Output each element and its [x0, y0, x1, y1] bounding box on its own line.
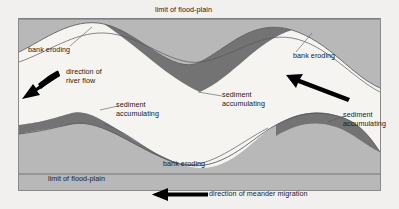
bank-eroding-bottom-label: bank eroding	[163, 160, 205, 169]
bank-eroding-top-right-label: bank eroding	[293, 52, 335, 61]
bank-eroding-top-left-label: bank eroding	[28, 46, 70, 55]
sediment-accumulating-top-middle-label: sediment accumulating	[222, 91, 284, 108]
direction-of-meander-migration-label: direction of meander migration	[209, 190, 308, 199]
direction-of-river-flow-label: direction of river flow	[66, 68, 110, 85]
sediment-accumulating-mid-right-label: sediment accumulating	[343, 111, 399, 128]
limit-of-floodplain-bottom-label: limit of flood-plain	[48, 175, 105, 184]
diagram-canvas: limit of flood-plain limit of flood-plai…	[0, 0, 399, 209]
sediment-accumulating-mid-left-label: sediment accumulating	[116, 101, 178, 118]
limit-of-floodplain-top-label: limit of flood-plain	[155, 6, 212, 15]
